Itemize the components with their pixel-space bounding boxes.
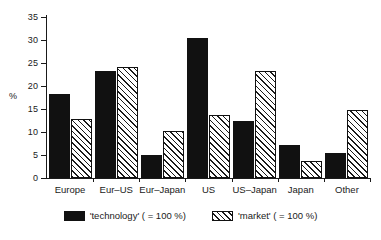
bar-group	[49, 17, 92, 178]
solid-black-swatch	[64, 211, 85, 221]
bar-technology	[141, 155, 162, 178]
x-tick	[232, 178, 233, 182]
y-tick-label-15: 15	[12, 105, 38, 114]
bar-technology	[233, 121, 254, 178]
bar-market	[117, 67, 138, 178]
legend-label-market: 'market' ( = 100 %)	[238, 210, 317, 221]
y-axis-title: %	[9, 92, 17, 101]
bar-technology	[325, 153, 346, 178]
x-tick	[278, 178, 279, 182]
bar-chart-figure: % 05101520253035 EuropeEur–USEur–JapanUS…	[0, 0, 381, 240]
bar-market	[209, 115, 230, 178]
bar-technology	[95, 71, 116, 178]
bar-technology	[49, 94, 70, 178]
y-tick-0	[41, 178, 47, 179]
x-tick	[370, 178, 371, 182]
bar-market	[301, 161, 322, 178]
legend-entry-technology: 'technology' ( = 100 %)	[64, 210, 186, 221]
x-tick	[93, 178, 94, 182]
bar-market	[163, 131, 184, 178]
y-tick-label-5: 5	[12, 151, 38, 160]
x-tick	[324, 178, 325, 182]
bar-technology	[187, 38, 208, 178]
y-tick-label-0: 0	[12, 174, 38, 183]
x-tick	[139, 178, 140, 182]
bar-technology	[279, 145, 300, 178]
bar-group	[325, 17, 368, 178]
bar-market	[347, 110, 368, 178]
legend-entry-market: 'market' ( = 100 %)	[212, 210, 317, 221]
x-axis-line	[46, 178, 371, 179]
y-tick-label-35: 35	[12, 13, 38, 22]
y-tick-label-30: 30	[12, 36, 38, 45]
y-tick-label-20: 20	[12, 82, 38, 91]
bar-market	[71, 119, 92, 178]
hatched-swatch	[212, 211, 233, 221]
legend-label-technology: 'technology' ( = 100 %)	[90, 210, 186, 221]
x-axis-label-other: Other	[302, 184, 381, 195]
bar-group	[95, 17, 138, 178]
bar-market	[255, 71, 276, 178]
bar-group	[187, 17, 230, 178]
x-tick	[185, 178, 186, 182]
bar-group	[233, 17, 276, 178]
bar-group	[279, 17, 322, 178]
chart-legend: 'technology' ( = 100 %)'market' ( = 100 …	[0, 210, 381, 221]
plot-area	[47, 17, 370, 178]
y-tick-label-25: 25	[12, 59, 38, 68]
bar-group	[141, 17, 184, 178]
y-tick-label-10: 10	[12, 128, 38, 137]
